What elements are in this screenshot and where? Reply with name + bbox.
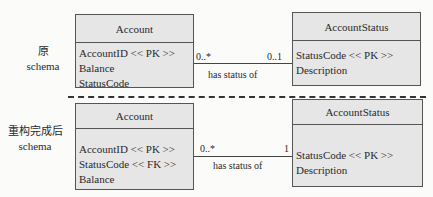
relationship-label: has status of <box>213 160 262 171</box>
entity-accountstatus-refactored: AccountStatus StatusCode << PK >> Descri… <box>292 99 423 187</box>
relationship-line-refactored <box>194 156 292 157</box>
attribute: StatusCode << PK >> <box>296 148 422 163</box>
entity-account-refactored: Account AccountID << PK >> StatusCode <<… <box>75 103 194 190</box>
attribute: AccountID << PK >> <box>79 46 193 61</box>
entity-account-original: Account AccountID << PK >> Balance Statu… <box>75 14 194 88</box>
right-multiplicity: 1 <box>284 143 289 154</box>
attribute-list: AccountID << PK >> StatusCode << FK >> B… <box>76 129 193 187</box>
attribute: StatusCode << FK >> <box>79 157 193 172</box>
attribute: Description <box>296 163 422 178</box>
entity-accountstatus-original: AccountStatus StatusCode << PK >> Descri… <box>292 12 421 86</box>
attribute-list: StatusCode << PK >> Description <box>293 41 420 78</box>
relationship-label: has status of <box>208 69 257 80</box>
label-line-2: schema <box>18 59 68 74</box>
entity-name: AccountStatus <box>293 13 420 41</box>
entity-name: AccountStatus <box>293 100 422 125</box>
section-divider <box>68 96 426 98</box>
label-line-2: schema <box>5 139 65 154</box>
original-schema-label: 原 schema <box>18 44 68 74</box>
left-multiplicity: 0..* <box>196 51 211 62</box>
refactored-schema-label: 重构完成后 schema <box>5 124 65 154</box>
relationship-line-original <box>194 63 292 64</box>
attribute: Balance <box>79 61 193 76</box>
attribute: StatusCode << PK >> <box>296 48 420 63</box>
label-line-1: 原 <box>18 44 68 59</box>
attribute: StatusCode <box>79 76 193 91</box>
left-multiplicity: 0..* <box>200 143 215 154</box>
entity-name: Account <box>76 104 193 129</box>
attribute-list: StatusCode << PK >> Description <box>293 125 422 178</box>
attribute-list: AccountID << PK >> Balance StatusCode <box>76 43 193 91</box>
attribute: Balance <box>79 172 193 187</box>
right-multiplicity: 0..1 <box>267 51 282 62</box>
attribute: AccountID << PK >> <box>79 142 193 157</box>
entity-name: Account <box>76 15 193 43</box>
attribute: Description <box>296 63 420 78</box>
label-line-1: 重构完成后 <box>5 124 65 139</box>
